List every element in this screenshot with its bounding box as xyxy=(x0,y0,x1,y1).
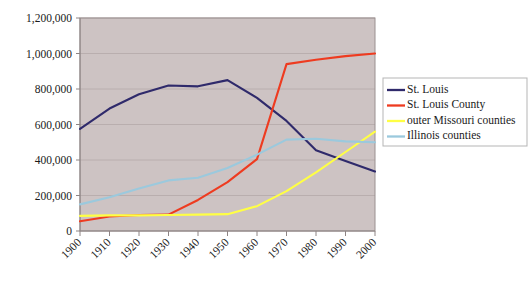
y-tick-label: 1,200,000 xyxy=(26,12,72,25)
y-tick-label: 1,000,000 xyxy=(26,48,72,61)
x-tick-label: 1900 xyxy=(59,236,84,261)
y-tick-label: 600,000 xyxy=(35,119,73,132)
line-chart: 0200,000400,000600,000800,0001,000,0001,… xyxy=(0,0,531,285)
x-axis-tick-labels: 1900191019201930194019501960197019801990… xyxy=(59,236,379,261)
x-tick-label: 1990 xyxy=(324,236,349,261)
chart-canvas: 0200,000400,000600,000800,0001,000,0001,… xyxy=(0,0,531,285)
y-tick-label: 800,000 xyxy=(35,83,73,96)
x-tick-label: 1960 xyxy=(236,236,261,261)
x-axis-tick-marks xyxy=(80,231,375,236)
y-tick-label: 400,000 xyxy=(35,154,73,167)
chart-legend: St. LouisSt. Louis Countyouter Missouri … xyxy=(383,78,527,146)
x-tick-label: 1970 xyxy=(265,236,290,261)
y-axis-tick-labels: 0200,000400,000600,000800,0001,000,0001,… xyxy=(26,12,72,237)
y-tick-label: 0 xyxy=(66,225,72,237)
y-tick-label: 200,000 xyxy=(35,190,73,203)
x-tick-label: 1940 xyxy=(177,236,202,261)
x-tick-label: 1910 xyxy=(88,236,113,261)
legend-label: St. Louis County xyxy=(407,98,486,111)
legend-label: St. Louis xyxy=(407,83,449,95)
x-tick-label: 1930 xyxy=(147,236,172,261)
x-tick-label: 1950 xyxy=(206,236,231,261)
x-tick-label: 1980 xyxy=(295,236,320,261)
legend-label: Illinois counties xyxy=(407,129,481,141)
legend-label: outer Missouri counties xyxy=(407,114,516,126)
x-tick-label: 1920 xyxy=(118,236,143,261)
y-axis-tick-marks xyxy=(76,18,80,231)
x-tick-label: 2000 xyxy=(354,236,379,261)
